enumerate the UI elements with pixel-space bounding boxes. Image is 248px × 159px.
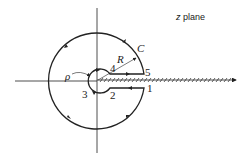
arrow-icon xyxy=(128,86,132,90)
radius-label: R xyxy=(116,53,124,65)
rho-pointer xyxy=(72,72,90,76)
point-4: 4 xyxy=(110,62,116,74)
rho-label: ρ xyxy=(64,70,70,82)
point-2: 2 xyxy=(110,89,116,101)
plane-label: z plane xyxy=(175,12,205,22)
arrow-icon xyxy=(126,72,130,76)
point-1: 1 xyxy=(147,82,153,94)
point-5: 5 xyxy=(145,66,151,78)
point-3: 3 xyxy=(82,88,88,100)
contour-label: C xyxy=(137,42,145,54)
contour-diagram: z plane C R ρ 1 2 3 4 5 xyxy=(0,0,248,159)
arrow-icon xyxy=(67,115,71,119)
